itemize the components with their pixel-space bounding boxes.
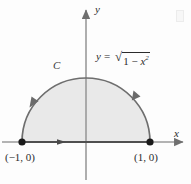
point-label-right: (1, 0): [134, 152, 158, 163]
point-right-marker: [146, 138, 153, 145]
y-axis-label: y: [95, 4, 100, 15]
equation-row: y = √ 1 − x2: [96, 51, 150, 67]
radical-group: √ 1 − x2: [115, 51, 150, 67]
curve-label-c: C: [53, 60, 60, 71]
figure-semicircle-curve: y x C y = √ 1 − x2 (−1, 0) (1, 0): [0, 0, 191, 184]
radicand-lead: 1 −: [123, 55, 140, 67]
page-edge-artifact: [176, 10, 184, 22]
x-axis-label: x: [174, 128, 179, 139]
equation-equals: =: [104, 51, 110, 62]
equation-lhs: y: [96, 51, 101, 62]
direction-arrow-arc-right: [132, 91, 141, 101]
radicand-exponent: 2: [145, 54, 149, 62]
point-left-marker: [18, 138, 25, 145]
point-label-left: (−1, 0): [5, 152, 35, 163]
radical-sign: √: [115, 51, 122, 67]
equation-label: y = √ 1 − x2: [96, 51, 150, 67]
radicand: 1 − x2: [122, 52, 150, 67]
